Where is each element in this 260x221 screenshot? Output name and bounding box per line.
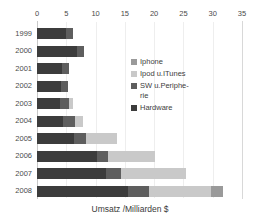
bar-segment [63, 116, 75, 127]
x-axis-tick-label: 10 [91, 8, 99, 19]
legend-color-swatch [131, 59, 137, 65]
legend-color-swatch [131, 83, 137, 89]
bar-segment [149, 186, 211, 197]
bar-segment [75, 116, 83, 127]
bar-row [37, 28, 73, 39]
bar-segment [69, 98, 73, 109]
legend-item: Iphone [131, 57, 217, 67]
bar-segment [211, 186, 223, 197]
x-axis-tick-label: 15 [121, 8, 129, 19]
bar-segment [86, 133, 118, 144]
bar-row [37, 133, 117, 144]
x-axis-tick-label: 25 [179, 8, 187, 19]
bar-segment [106, 168, 121, 179]
y-axis-category-labels: 1999200020012002200320042005200620072008 [0, 0, 36, 221]
x-axis-tick-labels: 05101520253035 [0, 8, 260, 20]
chart-legend: IphoneIpod u.ITunesSW u.Periphe- rieHard… [131, 57, 217, 115]
bar-segment [128, 186, 148, 197]
legend-label: Hardware [140, 103, 173, 113]
x-axis-tick-label: 20 [150, 8, 158, 19]
legend-item: Hardware [131, 103, 217, 113]
bar-row [37, 63, 69, 74]
bar-segment [37, 168, 106, 179]
bar-segment [37, 133, 74, 144]
bar-segment [60, 98, 69, 109]
legend-label: Iphone [140, 57, 163, 67]
y-axis-tick-label: 2001 [15, 64, 32, 74]
stacked-bar-chart: 05101520253035 1999200020012002200320042… [0, 0, 260, 221]
y-axis-tick-label: 1999 [15, 29, 32, 39]
legend-item: Ipod u.ITunes [131, 69, 217, 79]
bar-segment [37, 81, 61, 92]
bar-row [37, 116, 83, 127]
bar-segment [37, 186, 128, 197]
x-axis-tick-label: 5 [64, 8, 68, 19]
bar-segment [97, 151, 108, 162]
y-axis-tick-label: 2004 [15, 116, 32, 126]
bar-row [37, 151, 155, 162]
bar-row [37, 46, 84, 57]
legend-item: SW u.Periphe- rie [131, 81, 217, 100]
x-axis-tick-label: 35 [238, 8, 246, 19]
bar-segment [37, 46, 77, 57]
bar-segment [61, 81, 68, 92]
bar-segment [121, 168, 187, 179]
y-axis-tick-label: 2000 [15, 46, 32, 56]
bar-row [37, 98, 73, 109]
legend-label: Ipod u.ITunes [140, 69, 186, 79]
bar-segment [37, 98, 60, 109]
bar-segment [74, 133, 85, 144]
y-axis-tick-label: 2007 [15, 169, 32, 179]
bar-segment [66, 28, 72, 39]
bar-segment [77, 46, 84, 57]
legend-label: SW u.Periphe- rie [140, 81, 189, 100]
bar-row [37, 81, 68, 92]
legend-color-swatch [131, 71, 137, 77]
bar-segment [37, 116, 63, 127]
bar-segment [62, 63, 68, 74]
bar-segment [37, 63, 62, 74]
y-axis-tick-label: 2002 [15, 81, 32, 91]
bar-segment [37, 151, 97, 162]
bar-segment [108, 151, 155, 162]
legend-color-swatch [131, 105, 137, 111]
bar-segment [37, 28, 66, 39]
x-axis-tick-label: 30 [209, 8, 217, 19]
bar-row [37, 186, 223, 197]
y-axis-tick-label: 2006 [15, 151, 32, 161]
x-axis-end-line [242, 21, 243, 199]
bar-row [37, 168, 186, 179]
y-axis-tick-label: 2005 [15, 134, 32, 144]
chart-title: Umsatz /Milliarden $ [0, 203, 260, 215]
y-axis-tick-label: 2003 [15, 99, 32, 109]
y-axis-tick-label: 2008 [15, 186, 32, 196]
